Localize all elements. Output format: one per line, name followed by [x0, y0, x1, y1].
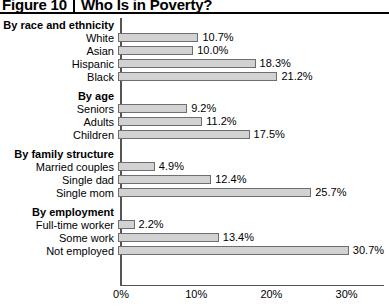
chart-bar-row: Single mom25.7% — [0, 186, 389, 199]
bar-value-label: 11.2% — [202, 116, 236, 127]
bar-category-label: Single mom — [0, 187, 117, 199]
bar-category-label: Asian — [0, 45, 117, 57]
chart-group-header: By age — [0, 89, 389, 102]
bar-container: 21.2% — [117, 70, 389, 83]
bar-container: 13.4% — [117, 231, 389, 244]
chart-bar-row: Black21.2% — [0, 70, 389, 83]
bar-value-label: 30.7% — [349, 245, 384, 256]
group-label: By family structure — [0, 148, 117, 160]
bar — [118, 233, 219, 242]
bar-category-label: Married couples — [0, 161, 117, 173]
figure-number: Figure 10 — [0, 0, 67, 13]
chart-group-header: By race and ethnicity — [0, 18, 389, 31]
chart-bar-row: Not employed30.7% — [0, 244, 389, 257]
bar — [118, 59, 256, 68]
bar-category-label: White — [0, 32, 117, 44]
bar — [118, 220, 135, 229]
chart-bar-row: Full-time worker2.2% — [0, 218, 389, 231]
chart-group-header: By family structure — [0, 147, 389, 160]
bar — [118, 117, 202, 126]
bar-value-label: 12.4% — [211, 174, 246, 185]
bar-container: 17.5% — [117, 128, 389, 141]
figure-title: Who Is in Poverty? — [81, 0, 212, 13]
bar — [118, 162, 155, 171]
bar-category-label: Seniors — [0, 103, 117, 115]
x-axis-tick-label: 0% — [113, 288, 129, 300]
chart-bar-row: Seniors9.2% — [0, 102, 389, 115]
x-axis-tick-label: 20% — [260, 288, 282, 300]
chart-bar-row: Adults11.2% — [0, 115, 389, 128]
bar — [118, 188, 311, 197]
bar-value-label: 10.7% — [198, 32, 233, 43]
bar-value-label: 21.2% — [277, 71, 312, 82]
bar-container: 4.9% — [117, 160, 389, 173]
bar-category-label: Some work — [0, 232, 117, 244]
bar-category-label: Not employed — [0, 245, 117, 257]
bar-category-label: Black — [0, 71, 117, 83]
bar-category-label: Adults — [0, 116, 117, 128]
group-label: By employment — [0, 206, 117, 218]
chart-bar-row: Asian10.0% — [0, 44, 389, 57]
bar-value-label: 17.5% — [250, 129, 285, 140]
bar-value-label: 18.3% — [256, 58, 291, 69]
chart-bar-row: Married couples4.9% — [0, 160, 389, 173]
bar-category-label: Children — [0, 129, 117, 141]
x-axis-tick-label: 30% — [336, 288, 358, 300]
bar-container: 10.7% — [117, 31, 389, 44]
group-label: By race and ethnicity — [0, 19, 117, 31]
bar — [118, 46, 193, 55]
bar — [118, 72, 277, 81]
chart-group-header: By employment — [0, 205, 389, 218]
x-axis-ticks: 0%10%20%30% — [0, 288, 389, 304]
bar — [118, 104, 187, 113]
bar-value-label: 13.4% — [219, 232, 254, 243]
bar — [118, 175, 211, 184]
bar — [118, 130, 250, 139]
bar-container: 9.2% — [117, 102, 389, 115]
chart-bar-row: Single dad12.4% — [0, 173, 389, 186]
bar-container: 2.2% — [117, 218, 389, 231]
bar-value-label: 25.7% — [311, 187, 346, 198]
x-axis-tick-label: 10% — [185, 288, 207, 300]
bar — [118, 246, 349, 255]
bar-container: 30.7% — [117, 244, 389, 257]
bar-value-label: 2.2% — [135, 219, 164, 230]
bar-container: 25.7% — [117, 186, 389, 199]
bar-category-label: Full-time worker — [0, 219, 117, 231]
bar-value-label: 4.9% — [155, 161, 184, 172]
bar — [118, 33, 198, 42]
bar-value-label: 9.2% — [187, 103, 216, 114]
bar-container: 10.0% — [117, 44, 389, 57]
bar-category-label: Single dad — [0, 174, 117, 186]
header-rule — [0, 12, 389, 14]
bar-container: 18.3% — [117, 57, 389, 70]
chart-bar-row: Children17.5% — [0, 128, 389, 141]
bar-container: 11.2% — [117, 115, 389, 128]
group-label: By age — [0, 90, 117, 102]
bar-container: 12.4% — [117, 173, 389, 186]
chart-plot-area: By race and ethnicityWhite10.7%Asian10.0… — [0, 18, 389, 307]
bar-category-label: Hispanic — [0, 58, 117, 70]
x-axis-line — [120, 285, 384, 286]
chart-bar-row: White10.7% — [0, 31, 389, 44]
chart-bar-row: Some work13.4% — [0, 231, 389, 244]
bar-value-label: 10.0% — [193, 45, 228, 56]
chart-bar-row: Hispanic18.3% — [0, 57, 389, 70]
